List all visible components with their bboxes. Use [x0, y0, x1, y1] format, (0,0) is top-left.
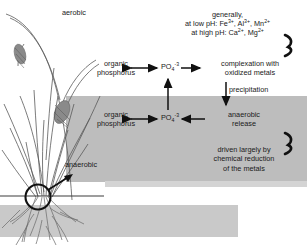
note-driven-by: driven largely by chemical reduction of … [186, 145, 302, 173]
metals-note-line3: at high pH: Ca2+, Mg2+ [160, 28, 295, 37]
node-complexation: complexation with oxidized metals [200, 59, 300, 78]
diagram-canvas: aerobic anaerobic generally, at low pH: … [0, 0, 307, 246]
node-anaerobic-release: anaerobic release [208, 110, 280, 129]
driven-line2: chemical reduction [186, 154, 302, 163]
organic-phosphorus-aerobic-line1: organic [88, 59, 144, 68]
node-organic-phosphorus-aerobic: organic phosphorus [88, 59, 144, 78]
anaerobic-release-line1: anaerobic [208, 110, 280, 119]
anaerobic-release-line2: release [208, 119, 280, 128]
node-phosphate-anaerobic: PO4-3 [161, 114, 179, 123]
node-organic-phosphorus-anaerobic: organic phosphorus [88, 110, 144, 129]
organic-phosphorus-aerobic-line2: phosphorus [88, 68, 144, 77]
soil-surface-strip [105, 181, 307, 187]
anaerobic-zone-label: anaerobic [65, 161, 97, 170]
metals-note: generally, at low pH: Fe3+, Al3+, Mn2+ a… [160, 10, 295, 38]
driven-line1: driven largely by [186, 145, 302, 154]
aerobic-zone-label: aerobic [62, 9, 86, 18]
organic-phosphorus-anaerobic-line1: organic [88, 110, 144, 119]
complexation-line1: complexation with [200, 59, 300, 68]
organic-phosphorus-anaerobic-line2: phosphorus [88, 119, 144, 128]
driven-line3: of the metals [186, 164, 302, 173]
brace-metals [285, 35, 291, 56]
node-phosphate-aerobic: PO4-3 [161, 63, 179, 72]
edge-label-precipitation: precipitation [229, 86, 268, 95]
complexation-line2: oxidized metals [200, 68, 300, 77]
